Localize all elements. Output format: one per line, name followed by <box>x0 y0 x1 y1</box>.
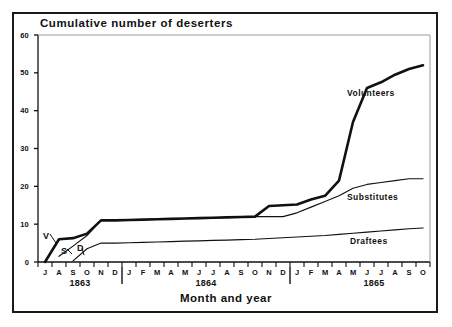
x-axis-tick-label: F <box>305 268 317 277</box>
x-axis-tick-label: N <box>95 268 107 277</box>
x-axis-tick-label: O <box>81 268 93 277</box>
x-axis-tick-label: O <box>417 268 429 277</box>
x-axis-tick-label: J <box>361 268 373 277</box>
series-label-draftees: Draftees <box>350 236 388 246</box>
y-axis-tick-label: 10 <box>9 220 29 229</box>
x-axis-tick-label: A <box>53 268 65 277</box>
y-axis-tick-label: 50 <box>9 68 29 77</box>
series-label-substitutes: Substitutes <box>347 192 398 202</box>
x-axis-tick-label: F <box>137 268 149 277</box>
x-axis-tick-label: M <box>319 268 331 277</box>
x-axis-title: Month and year <box>0 292 452 304</box>
x-axis-year-label: 1865 <box>354 278 394 288</box>
series-label-volunteers: Volunteers <box>347 88 395 98</box>
x-axis-tick-label: J <box>375 268 387 277</box>
series-start-marker-s: S <box>61 246 67 256</box>
x-axis-tick-label: A <box>333 268 345 277</box>
x-axis-tick-label: M <box>347 268 359 277</box>
x-axis-tick-label: D <box>277 268 289 277</box>
x-axis-tick-label: J <box>291 268 303 277</box>
x-axis-tick-label: S <box>67 268 79 277</box>
x-axis-tick-label: A <box>165 268 177 277</box>
x-axis-tick-label: J <box>207 268 219 277</box>
x-axis-tick-label: N <box>263 268 275 277</box>
x-axis-tick-label: S <box>235 268 247 277</box>
x-axis-tick-label: J <box>193 268 205 277</box>
y-axis-tick-label: 20 <box>9 182 29 191</box>
x-axis-tick-label: S <box>403 268 415 277</box>
y-axis-tick-label: 40 <box>9 106 29 115</box>
x-axis-tick-label: J <box>123 268 135 277</box>
series-start-marker-d: D <box>77 243 84 253</box>
x-axis-tick-label: M <box>179 268 191 277</box>
x-axis-tick-label: A <box>389 268 401 277</box>
y-axis-tick-label: 30 <box>9 144 29 153</box>
x-axis-tick-label: A <box>221 268 233 277</box>
y-axis-tick-label: 60 <box>9 31 29 40</box>
x-axis-tick-label: O <box>249 268 261 277</box>
chart-page: Cumulative number of deserters Month and… <box>0 0 452 327</box>
x-axis-year-label: 1863 <box>60 278 100 288</box>
series-start-marker-v: V <box>43 231 49 241</box>
x-axis-tick-label: M <box>151 268 163 277</box>
y-axis-tick-label: 0 <box>9 258 29 267</box>
x-axis-tick-label: J <box>39 268 51 277</box>
x-axis-year-label: 1864 <box>186 278 226 288</box>
x-axis-tick-label: D <box>109 268 121 277</box>
